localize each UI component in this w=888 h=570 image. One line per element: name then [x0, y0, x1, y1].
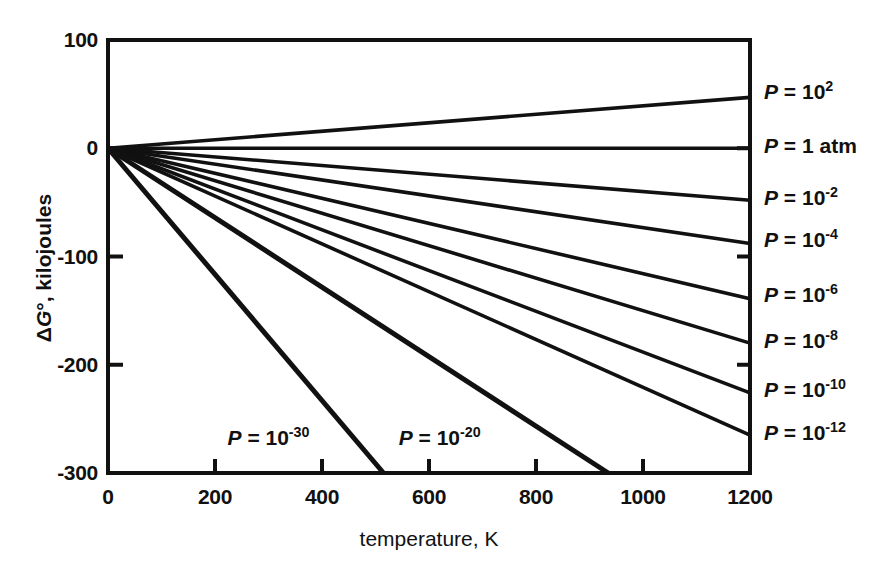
x-axis-tick-label: 200 [198, 485, 232, 509]
x-axis-tick-label: 600 [412, 485, 446, 509]
x-axis-tick-label: 1000 [620, 485, 666, 509]
series-label: P = 10‐12 [764, 421, 846, 445]
series-label: P = 10‐10 [764, 378, 846, 402]
in-plot-series-label: P = 10‐20 [399, 426, 481, 450]
series-label: P = 10‐2 [764, 186, 838, 210]
series-line [108, 97, 750, 148]
y-axis-tick-label: 0 [87, 136, 98, 160]
x-axis-title: temperature, K [108, 527, 750, 551]
series-line [108, 148, 384, 473]
series-line [108, 148, 750, 243]
series-line [108, 148, 750, 298]
x-axis-tick-label: 0 [102, 485, 113, 509]
series-label: P = 1 atm [764, 134, 857, 158]
y-axis-tick-label: -300 [57, 461, 98, 485]
series-lines [108, 97, 750, 473]
in-plot-series-label: P = 10‐30 [228, 426, 310, 450]
x-axis-tick-label: 800 [519, 485, 553, 509]
x-axis-tick-label: 400 [305, 485, 339, 509]
series-label: P = 10‐6 [764, 283, 838, 307]
y-axis-tick-label: 100 [64, 28, 98, 52]
series-label: P = 10‐4 [764, 228, 838, 252]
x-axis-tick-label: 1200 [727, 485, 773, 509]
y-axis-title: ΔG°, kilojoules [32, 158, 56, 378]
y-axis-tick-label: -200 [57, 353, 98, 377]
series-label: P = 102 [764, 80, 833, 104]
series-label: P = 10‐8 [764, 329, 838, 353]
y-axis-tick-label: -100 [57, 245, 98, 269]
series-line [108, 148, 750, 343]
chart-figure: 1000-100-200-300 020040060080010001200 P… [0, 0, 888, 570]
